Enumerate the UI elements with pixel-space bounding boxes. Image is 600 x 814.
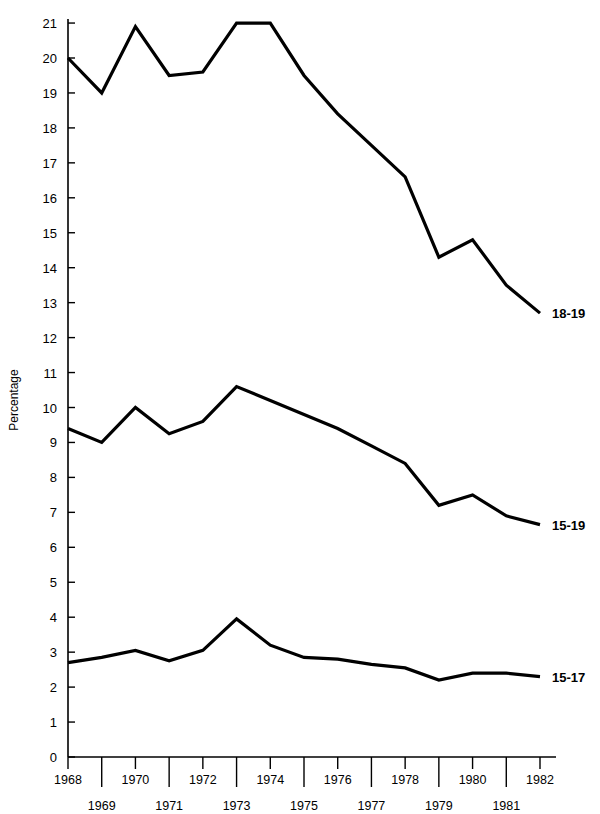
y-tick-label: 6	[50, 540, 57, 555]
y-axis: 0123456789101112131415161718192021	[43, 16, 75, 765]
series-label-18-19: 18-19	[552, 306, 585, 321]
y-tick-label: 11	[44, 366, 58, 381]
y-tick-label: 17	[43, 156, 57, 171]
x-tick-label-bottom: 1973	[223, 799, 251, 813]
x-tick-label-bottom: 1977	[358, 799, 386, 813]
y-tick-label: 13	[43, 296, 57, 311]
series-labels: 18-1915-1915-17	[552, 306, 585, 684]
y-tick-label: 19	[43, 86, 57, 101]
y-tick-label: 7	[50, 505, 57, 520]
x-tick-label-top: 1974	[256, 773, 284, 787]
x-tick-label-bottom: 1975	[290, 799, 318, 813]
y-tick-label: 0	[50, 750, 57, 765]
series-label-15-17: 15-17	[552, 670, 585, 685]
x-tick-label-top: 1982	[526, 773, 554, 787]
x-tick-label-top: 1976	[324, 773, 352, 787]
series-line-15-19	[68, 387, 540, 525]
x-tick-label-bottom: 1981	[492, 799, 520, 813]
y-tick-label: 15	[43, 226, 57, 241]
y-tick-label: 21	[43, 16, 57, 31]
series-lines	[68, 23, 540, 680]
x-tick-label-top: 1980	[459, 773, 487, 787]
y-axis-title: Percentage	[7, 369, 21, 431]
y-tick-label: 2	[50, 680, 57, 695]
y-tick-label: 16	[43, 191, 57, 206]
chart-container: 0123456789101112131415161718192021 19681…	[0, 0, 600, 814]
y-tick-label: 8	[50, 470, 57, 485]
x-tick-label-top: 1978	[391, 773, 419, 787]
y-tick-label: 14	[43, 261, 57, 276]
series-line-15-17	[68, 619, 540, 680]
y-tick-label: 3	[50, 645, 57, 660]
x-tick-label-bottom: 1971	[155, 799, 183, 813]
x-axis: 1968196919701971197219731974197519761977…	[54, 757, 556, 813]
y-tick-label: 12	[43, 331, 57, 346]
series-line-18-19	[68, 23, 540, 313]
y-tick-label: 20	[43, 51, 57, 66]
line-chart: 0123456789101112131415161718192021 19681…	[0, 0, 600, 814]
x-tick-label-top: 1970	[122, 773, 150, 787]
y-tick-label: 4	[50, 610, 57, 625]
x-tick-label-bottom: 1979	[425, 799, 453, 813]
y-tick-label: 9	[50, 435, 57, 450]
x-tick-label-bottom: 1969	[88, 799, 116, 813]
y-tick-label: 5	[50, 575, 57, 590]
y-tick-label: 18	[43, 121, 57, 136]
y-tick-label: 1	[50, 715, 57, 730]
y-tick-label: 10	[43, 401, 57, 416]
y-axis-title-text: Percentage	[7, 369, 21, 431]
x-tick-label-top: 1968	[54, 773, 82, 787]
series-label-15-19: 15-19	[552, 518, 585, 533]
x-tick-label-top: 1972	[189, 773, 217, 787]
